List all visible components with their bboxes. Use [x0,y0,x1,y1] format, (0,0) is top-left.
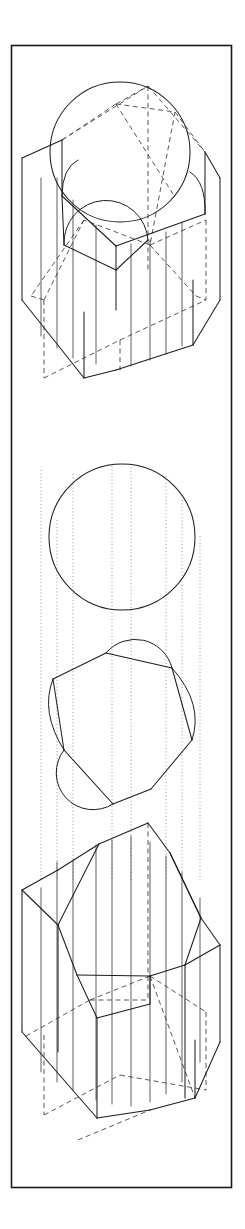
technical-drawing-plate [0,0,245,1229]
drawing-page [0,0,245,1229]
